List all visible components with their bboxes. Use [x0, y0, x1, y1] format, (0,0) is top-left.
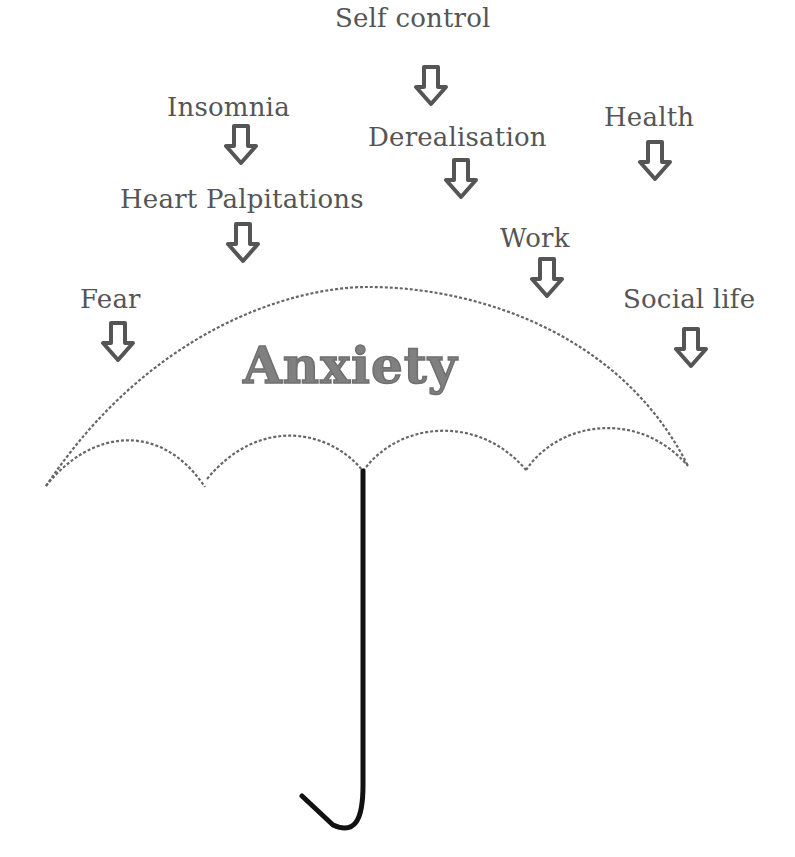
- label-work: Work: [500, 225, 570, 251]
- down-arrow-icon: [224, 124, 258, 166]
- umbrella-canopy-scallops: [46, 428, 688, 487]
- down-arrow-icon: [101, 321, 135, 363]
- label-fear: Fear: [80, 286, 141, 312]
- label-derealisation: Derealisation: [368, 124, 547, 150]
- anxiety-umbrella-diagram: Anxiety Self control Insomnia Derealisat…: [0, 0, 795, 857]
- down-arrow-icon: [674, 327, 708, 369]
- down-arrow-icon: [530, 257, 564, 299]
- label-self-control: Self control: [335, 5, 491, 31]
- down-arrow-icon: [226, 222, 260, 264]
- label-heart-palpitations: Heart Palpitations: [120, 186, 364, 212]
- label-insomnia: Insomnia: [167, 94, 290, 120]
- down-arrow-icon: [638, 140, 672, 182]
- down-arrow-icon: [444, 158, 478, 200]
- label-health: Health: [604, 104, 694, 130]
- label-social-life: Social life: [623, 286, 755, 312]
- down-arrow-icon: [414, 65, 448, 107]
- diagram-title: Anxiety: [243, 341, 458, 391]
- umbrella-handle: [302, 471, 363, 828]
